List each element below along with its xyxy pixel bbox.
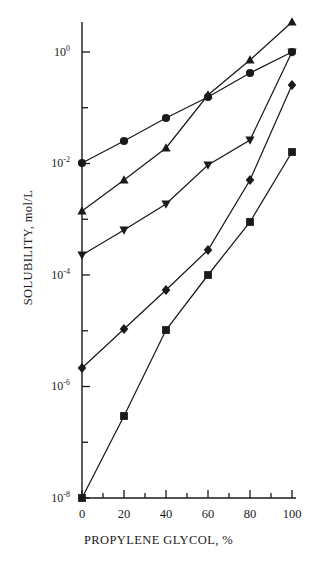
series-square-point-0 (78, 494, 86, 502)
series-square-point-3 (204, 271, 212, 279)
series-up-triangle-point-0 (77, 206, 86, 214)
plot-canvas (0, 0, 317, 567)
series-down-triangle-point-0 (77, 251, 86, 259)
series-circle-point-4 (246, 69, 254, 77)
series-circle-line (82, 52, 292, 163)
series-square-point-2 (162, 326, 170, 334)
series-diamond-point-4 (246, 175, 255, 185)
series-circle-point-2 (162, 114, 170, 122)
axes-group (82, 22, 296, 498)
series-up-triangle-point-5 (287, 17, 296, 25)
series-square-point-5 (288, 148, 296, 156)
series-down-triangle-point-1 (119, 226, 128, 234)
series-down-triangle-line (82, 52, 292, 255)
series-circle-point-3 (204, 93, 212, 101)
series-square-point-1 (120, 412, 128, 420)
series-down-triangle-point-2 (161, 200, 170, 208)
series-up-triangle-point-1 (119, 175, 128, 183)
series-diamond (78, 80, 297, 373)
series-circle-point-1 (120, 137, 128, 145)
series-square-line (82, 152, 292, 498)
series-circle-point-0 (78, 159, 86, 167)
series-down-triangle (77, 48, 296, 259)
series-diamond-line (82, 85, 292, 368)
solubility-log-chart: SOLUBILITY, mol/L PROPYLENE GLYCOL, % 10… (0, 0, 317, 567)
series-up-triangle-line (82, 22, 292, 211)
series-diamond-point-5 (288, 80, 297, 90)
series-down-triangle-point-4 (245, 136, 254, 144)
series-square-point-4 (246, 218, 254, 226)
series-square (78, 148, 296, 502)
series-layer (77, 17, 296, 502)
